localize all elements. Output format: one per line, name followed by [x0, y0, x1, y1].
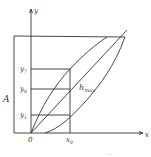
- x-axis-label: x: [145, 131, 149, 139]
- amplitude-label: A: [2, 94, 10, 104]
- y7-label: y7: [19, 65, 27, 74]
- linear-diagonal: [31, 30, 127, 133]
- y1-label: y1: [19, 111, 27, 120]
- y0-label: y0: [19, 85, 27, 94]
- hysteresis-diagram: y x 0 A y7 y0 y1 x0 hmax ...: [0, 0, 151, 157]
- hmax-label: hmax: [79, 83, 95, 93]
- y-axis-label: y: [33, 7, 39, 15]
- origin-label: 0: [28, 136, 33, 144]
- caption-fragment: ...: [108, 150, 113, 156]
- x0-label: x0: [66, 136, 73, 145]
